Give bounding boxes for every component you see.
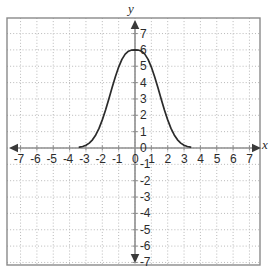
x-tick-label: 3: [181, 153, 187, 165]
x-tick-label: 2: [165, 153, 171, 165]
x-tick-label: -6: [30, 153, 40, 165]
x-tick-label: 7: [246, 153, 252, 165]
y-tick-label: -2: [140, 175, 150, 187]
x-tick-label: -5: [47, 153, 57, 165]
y-tick-label: 7: [140, 28, 146, 40]
x-tick-label: -7: [14, 153, 24, 165]
y-tick-label: -3: [140, 191, 150, 203]
y-tick-label: 5: [140, 60, 146, 72]
x-tick-label: -1: [112, 153, 122, 165]
y-tick-label: 2: [140, 109, 146, 121]
x-tick-label: 4: [197, 153, 203, 165]
x-tick-label: -3: [79, 153, 89, 165]
coordinate-plane: [0, 0, 270, 272]
x-axis-label: x: [262, 138, 268, 151]
x-tick-label: -4: [63, 153, 73, 165]
y-tick-label: 3: [140, 93, 146, 105]
y-axis-label: y: [128, 2, 134, 15]
y-tick-label: -1: [140, 158, 150, 170]
graph-figure: -7-6-5-4-3-2-101234567 76543210-1-2-3-4-…: [0, 0, 270, 272]
x-tick-label: 0: [132, 153, 138, 165]
x-tick-label: -2: [96, 153, 106, 165]
x-tick-label: 5: [214, 153, 220, 165]
y-tick-label: -7: [140, 256, 150, 268]
y-tick-label: -4: [140, 207, 150, 219]
x-tick-label: 6: [230, 153, 236, 165]
y-tick-label: -6: [140, 240, 150, 252]
y-tick-label: 0: [140, 142, 146, 154]
y-tick-label: 1: [140, 126, 146, 138]
y-tick-label: -5: [140, 224, 150, 236]
y-tick-label: 4: [140, 77, 146, 89]
y-tick-label: 6: [140, 44, 146, 56]
